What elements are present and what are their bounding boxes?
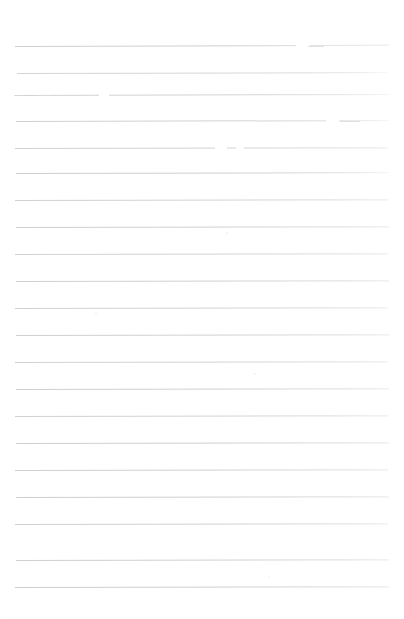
speck-artifact [226, 232, 228, 234]
ruled-line [15, 307, 388, 309]
ruled-line [15, 94, 390, 96]
ruled-line [15, 45, 389, 47]
ruled-line [16, 280, 389, 282]
speck-artifact [122, 113, 123, 114]
ruled-line [16, 226, 389, 228]
stray-mark-artifact [14, 95, 23, 96]
stray-mark-artifact [38, 95, 52, 96]
ruled-line [15, 586, 389, 588]
line-break-artifact [326, 120, 339, 122]
ruled-line-layer [0, 0, 404, 619]
line-break-artifact [215, 147, 227, 149]
speck-artifact [254, 373, 256, 375]
line-break-artifact [236, 147, 244, 149]
stray-mark-artifact [308, 46, 324, 47]
speck-artifact [268, 576, 270, 578]
ruled-line [15, 147, 388, 149]
ruled-line [15, 253, 388, 255]
line-break-artifact [99, 94, 109, 96]
ruled-line [16, 559, 389, 561]
ruled-line [15, 523, 388, 525]
ruled-line [15, 361, 388, 363]
ruled-line [16, 172, 389, 174]
ruled-line [17, 72, 387, 74]
ruled-line [15, 469, 388, 471]
ruled-line [15, 199, 388, 201]
ruled-line [16, 496, 389, 498]
speck-artifact [95, 312, 97, 314]
ruled-line [16, 388, 389, 390]
ruled-line [16, 334, 389, 336]
speck-artifact [362, 238, 363, 239]
stray-mark-artifact [340, 121, 360, 122]
ruled-paper-page: Blank lined page [0, 0, 404, 619]
ruled-line [15, 415, 388, 417]
ruled-line [16, 442, 389, 444]
